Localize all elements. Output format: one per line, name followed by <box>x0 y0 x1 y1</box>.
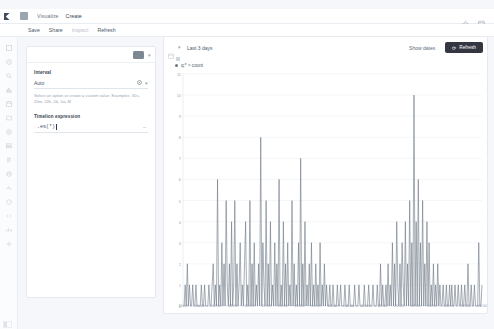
panel-header: ▾ <box>27 47 155 63</box>
expression-value: .es(*) <box>37 124 55 130</box>
query-bar: ▾ Last 3 days Show dates ⟳ Refresh <box>163 40 488 55</box>
x-axis-labels: 16:0020:0000:0004:0008:0012:0016:0020:00… <box>163 303 488 313</box>
rail-item-13[interactable] <box>1 223 17 237</box>
x-tick-label: 20:00 <box>394 303 404 308</box>
x-tick-label: 20:00 <box>294 303 304 308</box>
refresh-button[interactable]: ⟳ Refresh <box>445 42 483 53</box>
canvas-icon <box>6 101 12 107</box>
inspect-button[interactable]: Inspect <box>72 27 89 33</box>
rail-item-4[interactable] <box>1 97 17 111</box>
interval-field-group: Interval Auto ▾ Select an option or crea… <box>34 70 148 105</box>
rail-item-1[interactable] <box>1 55 17 69</box>
share-button[interactable]: Share <box>49 27 63 33</box>
expression-label: Timelion expression <box>34 114 148 119</box>
breadcrumb-create[interactable]: Create <box>66 13 82 19</box>
x-tick-label: 12:00 <box>461 303 471 308</box>
app-grid-icon[interactable] <box>20 12 28 20</box>
rail-item-8[interactable] <box>1 153 17 167</box>
refresh-icon: ⟳ <box>452 45 456 51</box>
x-tick-label: 20:00 <box>195 303 205 308</box>
x-tick-label: 16:00 <box>377 303 387 308</box>
clear-icon[interactable] <box>137 80 142 86</box>
x-tick-label: 00:00 <box>211 303 221 308</box>
chevron-down-icon[interactable]: ▾ <box>148 52 151 58</box>
chevron-down-icon[interactable]: ▾ <box>145 80 148 86</box>
rail-item-0[interactable] <box>1 41 17 55</box>
apm-icon <box>6 171 12 177</box>
chart-legend[interactable]: q:* > count <box>175 63 203 68</box>
interval-label: Interval <box>34 70 148 75</box>
global-header: Visualize Create <box>0 9 494 24</box>
x-tick-label: 16:00 <box>178 303 188 308</box>
dev-tools-icon <box>6 213 12 219</box>
breadcrumb: Visualize Create <box>37 13 82 19</box>
clock-icon <box>6 59 12 65</box>
save-button[interactable]: Save <box>28 27 40 33</box>
expression-field-group: Timelion expression .es(*) ⋯ <box>34 114 148 133</box>
x-tick-label: 00:00 <box>411 303 421 308</box>
x-tick-label: 00:00 <box>311 303 321 308</box>
legend-series-label: q:* > count <box>181 63 203 68</box>
x-tick-label: 08:00 <box>444 303 454 308</box>
x-tick-label: 08:00 <box>344 303 354 308</box>
interval-input[interactable]: Auto ▾ <box>34 78 148 89</box>
discover-icon <box>6 73 12 79</box>
panel-toggle-icon[interactable] <box>133 51 144 59</box>
legend-marker-icon <box>175 64 178 67</box>
rail-item-12[interactable] <box>1 209 17 223</box>
logs-icon <box>6 157 12 163</box>
suggestions-icon[interactable]: ⋯ <box>143 124 148 131</box>
dashboard-icon <box>6 45 12 51</box>
interval-controls: ▾ <box>137 80 148 86</box>
chart-svg <box>163 70 488 314</box>
rail-item-14[interactable] <box>1 237 17 251</box>
panel-body: Interval Auto ▾ Select an option or crea… <box>27 63 155 133</box>
x-tick-label: 08:00 <box>245 303 255 308</box>
rail-item-10[interactable] <box>1 181 17 195</box>
timelion-expression-input[interactable]: .es(*) ⋯ <box>34 122 148 133</box>
x-tick-label: 04:00 <box>427 303 437 308</box>
refresh-action-button[interactable]: Refresh <box>97 27 115 33</box>
header-actions <box>462 13 494 20</box>
rail-item-2[interactable] <box>1 69 17 83</box>
text-caret <box>56 124 57 130</box>
primary-nav-rail[interactable] <box>0 9 18 329</box>
siem-icon <box>6 199 12 205</box>
rail-item-6[interactable] <box>1 125 17 139</box>
rail-item-7[interactable] <box>1 139 17 153</box>
kibana-timelion-app: Visualize Create Save Share Inspect Refr… <box>0 0 494 329</box>
breadcrumb-visualize[interactable]: Visualize <box>37 13 59 19</box>
uptime-icon <box>6 185 12 191</box>
x-tick-label: 04:00 <box>328 303 338 308</box>
refresh-button-label: Refresh <box>459 45 476 50</box>
x-tick-label: 04:00 <box>228 303 238 308</box>
management-icon <box>6 241 12 247</box>
gear-icon[interactable] <box>462 13 469 20</box>
rail-item-3[interactable] <box>1 83 17 97</box>
time-range-value[interactable]: Last 3 days <box>187 45 213 51</box>
interval-value: Auto <box>34 80 44 86</box>
collapse-icon[interactable] <box>3 315 12 324</box>
rail-item-11[interactable] <box>1 195 17 209</box>
x-tick-label: 12:00 <box>361 303 371 308</box>
x-tick-label: 12:00 <box>261 303 271 308</box>
timelion-editor-panel: ▾ Interval Auto ▾ Select an option or cr… <box>26 46 156 298</box>
help-icon[interactable] <box>478 13 485 20</box>
elastic-logo-icon[interactable] <box>0 9 14 24</box>
x-tick-label: 16:00 <box>278 303 288 308</box>
legend-toggle-icon[interactable] <box>176 57 180 61</box>
timeseries-chart[interactable] <box>163 70 488 314</box>
x-tick-label: 16:00 <box>477 303 487 308</box>
rail-item-9[interactable] <box>1 167 17 181</box>
chevron-down-icon[interactable]: ▾ <box>178 45 181 50</box>
show-dates-link[interactable]: Show dates <box>409 45 435 51</box>
monitoring-icon <box>6 227 12 233</box>
calendar-icon[interactable] <box>168 45 174 51</box>
ml-icon <box>6 129 12 135</box>
infrastructure-icon <box>6 143 12 149</box>
visualize-icon <box>6 87 12 93</box>
maps-icon <box>6 115 12 121</box>
rail-item-5[interactable] <box>1 111 17 125</box>
interval-help-text: Select an option or create a custom valu… <box>34 93 148 105</box>
